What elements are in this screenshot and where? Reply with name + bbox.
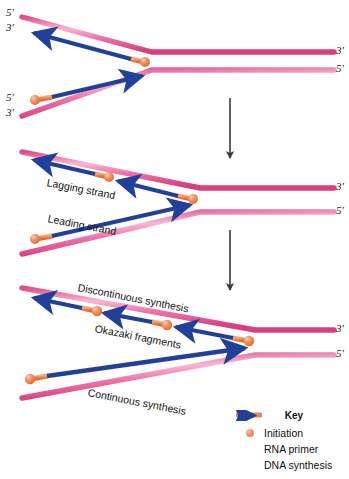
end-label-3prime-top-left-lower: 3′ xyxy=(6,21,14,33)
legend-item-dna-synthesis: DNA synthesis xyxy=(236,457,346,472)
template-strand-upper xyxy=(22,17,334,52)
initiation-dot xyxy=(104,172,114,182)
initiation-dot xyxy=(30,234,40,244)
panel-2-group xyxy=(22,152,334,254)
end-label-3prime-bottom-left-lower: 3′ xyxy=(6,106,14,118)
okazaki-fragment-3 xyxy=(176,327,233,338)
legend-item-initiation: Initiation xyxy=(236,425,346,440)
initiation-dot xyxy=(25,374,35,384)
legend-label-dna-synthesis: DNA synthesis xyxy=(264,459,332,471)
initiation-dot xyxy=(244,336,254,346)
legend-key: Key Initiation RNA primer xyxy=(236,410,346,473)
end-label-3prime-right-upper: 3′ xyxy=(336,44,344,56)
end-label-3prime-panel2-right-upper: 3′ xyxy=(336,180,344,192)
template-strand-lower xyxy=(22,355,334,398)
legend-item-rna-primer: RNA primer xyxy=(236,441,346,456)
end-label-5prime-top-left-upper: 5′ xyxy=(6,6,14,18)
initiation-dot xyxy=(140,57,150,67)
okazaki-fragment-2 xyxy=(104,313,152,322)
dna-synthesis-arrow-lagging xyxy=(34,33,131,59)
legend-label-rna-primer: RNA primer xyxy=(264,443,318,455)
initiation-dot xyxy=(162,320,172,330)
legend-label-initiation: Initiation xyxy=(264,427,303,439)
initiation-dot xyxy=(188,194,198,204)
initiation-dot-icon xyxy=(236,429,264,437)
end-label-3prime-panel3-right-upper: 3′ xyxy=(336,322,344,334)
end-label-5prime-bottom-left-upper: 5′ xyxy=(6,91,14,103)
end-label-5prime-panel2-right-lower: 5′ xyxy=(336,204,344,216)
end-label-5prime-panel3-right-lower: 5′ xyxy=(336,347,344,359)
initiation-dot xyxy=(30,95,40,105)
initiation-dot xyxy=(92,306,102,316)
panel-1-group xyxy=(22,17,334,116)
end-label-5prime-right-lower: 5′ xyxy=(336,62,344,74)
dna-synthesis-arrow-leading xyxy=(52,76,142,97)
dna-replication-diagram: 5′ 3′ 5′ 3′ 3′ 5′ 3′ 5′ Lagging strand L… xyxy=(0,0,349,479)
